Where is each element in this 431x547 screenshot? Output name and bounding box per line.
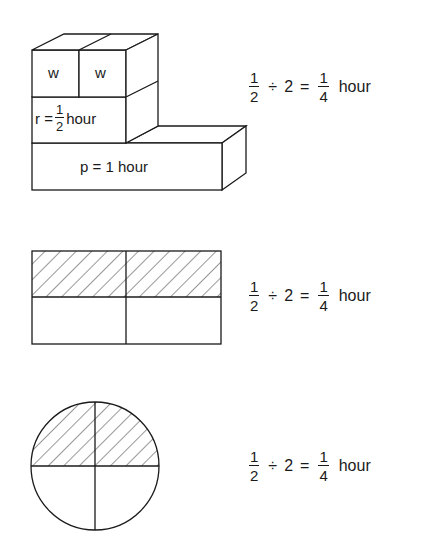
equation-3: 1 2 ÷ 2 = 1 4 hour (247, 449, 371, 483)
fraction-a-num: 1 (249, 449, 259, 466)
divide-sign: ÷ (268, 78, 277, 96)
rectangle-model (32, 251, 221, 344)
unit-label: hour (339, 287, 371, 305)
fraction-result: 1 4 (318, 279, 328, 313)
equals-sign: = (300, 287, 309, 305)
fraction-result-den: 4 (319, 87, 327, 104)
fraction-a: 1 2 (249, 70, 259, 104)
fraction-a-den: 2 (250, 296, 258, 313)
equation-1: 1 2 ÷ 2 = 1 4 hour (247, 70, 371, 104)
fraction-a: 1 2 (249, 279, 259, 313)
divide-sign: ÷ (268, 457, 277, 475)
divisor: 2 (284, 78, 293, 96)
r-block-unit: hour (66, 110, 96, 127)
fraction-a-den: 2 (250, 87, 258, 104)
cube-label-w-1: w (48, 65, 59, 80)
unit-label: hour (339, 457, 371, 475)
r-block-label: r = 1 2 hour (35, 103, 96, 133)
divisor: 2 (284, 457, 293, 475)
r-block-prefix: r = (35, 110, 53, 127)
divisor: 2 (284, 287, 293, 305)
circle-model (31, 402, 159, 530)
fraction-result: 1 4 (318, 449, 328, 483)
divide-sign: ÷ (268, 287, 277, 305)
fraction-result-num: 1 (318, 279, 328, 296)
fraction-result-den: 4 (319, 296, 327, 313)
fraction-result-num: 1 (318, 70, 328, 87)
fraction-a-num: 1 (249, 70, 259, 87)
equation-2: 1 2 ÷ 2 = 1 4 hour (247, 279, 371, 313)
unit-label: hour (339, 78, 371, 96)
equals-sign: = (300, 78, 309, 96)
r-fraction: 1 2 (55, 103, 64, 133)
equals-sign: = (300, 457, 309, 475)
r-fraction-numerator: 1 (55, 103, 64, 118)
p-block-label: p = 1 hour (80, 159, 148, 174)
fraction-a-den: 2 (250, 466, 258, 483)
cube-label-w-2: w (95, 65, 106, 80)
fraction-result: 1 4 (318, 70, 328, 104)
r-fraction-denominator: 2 (56, 118, 63, 133)
fraction-a: 1 2 (249, 449, 259, 483)
fraction-result-num: 1 (318, 449, 328, 466)
fraction-a-num: 1 (249, 279, 259, 296)
fraction-result-den: 4 (319, 466, 327, 483)
